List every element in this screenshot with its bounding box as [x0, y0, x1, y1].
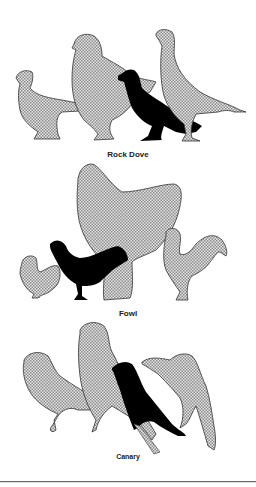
caption-canary: Canary: [116, 453, 140, 461]
canary-group: [23, 323, 215, 454]
rock-dove-group: [16, 30, 246, 141]
fowl-group: [20, 164, 227, 300]
fowl-right-rooster-silhouette: [164, 228, 227, 300]
dove-center-large-silhouette: [72, 34, 156, 140]
bottom-rule-divider: [0, 481, 256, 482]
caption-fowl: Fowl: [119, 309, 137, 318]
fowl-small-bantam-silhouette: [20, 256, 60, 298]
bird-silhouette-figure: Rock Dove Fowl Canary: [0, 0, 256, 487]
illustration-canvas: Rock Dove Fowl Canary: [0, 0, 256, 487]
caption-rock-dove: Rock Dove: [107, 150, 149, 159]
